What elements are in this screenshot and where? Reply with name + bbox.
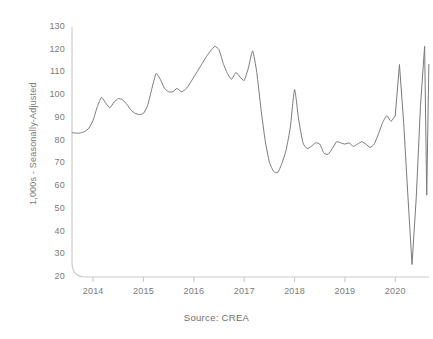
y-axis-label-120: 120 <box>41 44 65 54</box>
data-line-0 <box>72 46 395 172</box>
y-axis-label-80: 80 <box>41 135 65 145</box>
x-axis-label-2015: 2015 <box>124 286 164 296</box>
chart-container: 2030405060708090100110120130 20142015201… <box>0 0 433 339</box>
data-series-group <box>72 46 429 264</box>
y-axis-label-50: 50 <box>41 203 65 213</box>
y-axis-label-40: 40 <box>41 226 65 236</box>
y-axis-label-30: 30 <box>41 248 65 258</box>
x-axis-label-2017: 2017 <box>224 286 264 296</box>
x-axis-label-2020: 2020 <box>375 286 415 296</box>
y-axis-label-20: 20 <box>41 271 65 281</box>
x-axis-label-2019: 2019 <box>325 286 365 296</box>
y-axis-label-130: 130 <box>41 21 65 31</box>
y-axis-label-70: 70 <box>41 157 65 167</box>
x-axis-label-2018: 2018 <box>275 286 315 296</box>
x-axis-label-2016: 2016 <box>174 286 214 296</box>
x-axis-tick-marks <box>93 277 395 282</box>
y-axis-label-110: 110 <box>41 66 65 76</box>
axis-spine <box>72 27 429 277</box>
y-axis-label-90: 90 <box>41 112 65 122</box>
y-axis-title: 1,000s - Seasonally-Adjusted <box>28 82 38 205</box>
y-axis-label-100: 100 <box>41 89 65 99</box>
data-line-covid-0 <box>395 46 429 264</box>
x-axis-label-2014: 2014 <box>73 286 113 296</box>
y-axis-label-60: 60 <box>41 180 65 190</box>
source-caption: Source: CREA <box>0 312 433 323</box>
chart-axes <box>72 27 429 277</box>
